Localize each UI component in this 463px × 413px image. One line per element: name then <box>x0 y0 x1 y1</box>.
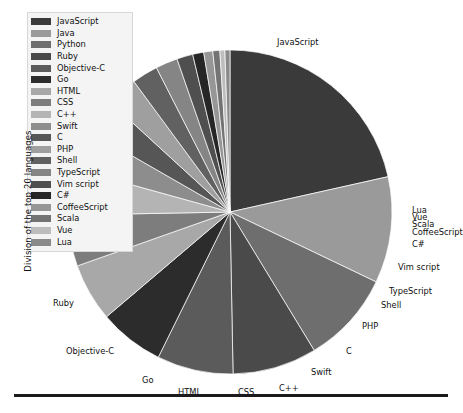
legend-item-swift[interactable]: Swift <box>31 120 128 132</box>
legend-swatch-icon <box>31 146 51 153</box>
legend-item-label: HTML <box>57 87 80 96</box>
legend-item-label: Go <box>57 75 69 84</box>
legend-item-label: C <box>57 133 63 142</box>
legend-item-html[interactable]: HTML <box>31 86 128 98</box>
legend-item-coffeescript[interactable]: CoffeeScript <box>31 202 128 214</box>
legend-item-ruby[interactable]: Ruby <box>31 51 128 63</box>
legend-item-go[interactable]: Go <box>31 74 128 86</box>
callout-objectivec: Objective-C <box>66 347 114 356</box>
legend-item-label: Vim script <box>57 180 99 189</box>
legend-item-vue[interactable]: Vue <box>31 225 128 237</box>
legend-item-label: Vue <box>57 226 72 235</box>
y-axis-label: Division of the top 20 languages <box>23 101 33 301</box>
legend-swatch-icon <box>31 134 51 141</box>
callout-c: C <box>346 347 352 356</box>
legend-item-label: C++ <box>57 110 77 119</box>
legend-swatch-icon <box>31 53 51 60</box>
callout-vimscript: Vim script <box>398 263 440 272</box>
legend-item-shell[interactable]: Shell <box>31 155 128 167</box>
legend-item-c-[interactable]: C# <box>31 190 128 202</box>
legend-item-label: Objective-C <box>57 64 105 73</box>
legend-swatch-icon <box>31 157 51 164</box>
legend-swatch-icon <box>31 169 51 176</box>
legend-swatch-icon <box>31 30 51 37</box>
legend-swatch-icon <box>31 99 51 106</box>
bottom-axis-rule <box>14 394 448 397</box>
legend-item-label: Scala <box>57 214 79 223</box>
callout-go: Go <box>142 376 154 385</box>
legend-item-label: PHP <box>57 145 73 154</box>
legend-swatch-icon <box>31 18 51 25</box>
legend-swatch-icon <box>31 215 51 222</box>
legend-swatch-icon <box>31 111 51 118</box>
legend-swatch-icon <box>31 88 51 95</box>
legend-item-label: TypeScript <box>57 168 100 177</box>
legend-item-label: CSS <box>57 98 73 107</box>
legend-swatch-icon <box>31 227 51 234</box>
legend-item-label: Java <box>57 29 75 38</box>
callout-javascript: JavaScript <box>277 38 319 47</box>
callout-shell: Shell <box>381 301 401 310</box>
callout-php: PHP <box>362 322 378 331</box>
legend-item-label: Python <box>57 40 86 49</box>
legend-item-label: CoffeeScript <box>57 203 108 212</box>
legend-item-label: C# <box>57 191 70 200</box>
legend-item-c[interactable]: C <box>31 132 128 144</box>
legend-swatch-icon <box>31 65 51 72</box>
legend-item-lua[interactable]: Lua <box>31 236 128 248</box>
legend-item-css[interactable]: CSS <box>31 97 128 109</box>
legend-item-label: Swift <box>57 122 77 131</box>
legend-item-scala[interactable]: Scala <box>31 213 128 225</box>
callout-csharp: C# <box>412 240 425 249</box>
legend-swatch-icon <box>31 123 51 130</box>
legend-item-python[interactable]: Python <box>31 39 128 51</box>
legend-swatch-icon <box>31 41 51 48</box>
callout-typescript: TypeScript <box>389 287 432 296</box>
legend-item-label: Lua <box>57 238 72 247</box>
callout-swift: Swift <box>311 368 331 377</box>
legend-swatch-icon <box>31 76 51 83</box>
languages-legend[interactable]: JavaScriptJavaPythonRubyObjective-CGoHTM… <box>27 12 133 252</box>
legend-item-php[interactable]: PHP <box>31 144 128 156</box>
legend-swatch-icon <box>31 181 51 188</box>
legend-swatch-icon <box>31 192 51 199</box>
legend-item-label: JavaScript <box>57 17 99 26</box>
legend-item-javascript[interactable]: JavaScript <box>31 16 128 28</box>
legend-swatch-icon <box>31 239 51 246</box>
legend-item-java[interactable]: Java <box>31 28 128 40</box>
legend-item-objective-c[interactable]: Objective-C <box>31 62 128 74</box>
legend-swatch-icon <box>31 204 51 211</box>
callout-cplusplus: C++ <box>279 384 299 393</box>
callout-coffeescript: CoffeeScript <box>412 228 463 237</box>
legend-item-label: Ruby <box>57 52 78 61</box>
legend-item-c-[interactable]: C++ <box>31 109 128 121</box>
legend-item-typescript[interactable]: TypeScript <box>31 167 128 179</box>
legend-item-vim-script[interactable]: Vim script <box>31 178 128 190</box>
callout-ruby: Ruby <box>53 299 74 308</box>
legend-item-label: Shell <box>57 156 77 165</box>
